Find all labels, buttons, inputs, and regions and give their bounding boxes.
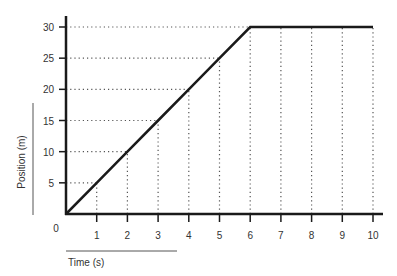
y-tick-label-5: 5	[48, 178, 54, 189]
x-tick-label-6: 6	[247, 230, 253, 241]
x-tick-label-8: 8	[309, 230, 315, 241]
x-tick-label-1: 1	[94, 230, 100, 241]
y-tick-label-15: 15	[43, 116, 55, 127]
x-tick-label-5: 5	[217, 230, 223, 241]
x-tick-label-4: 4	[186, 230, 192, 241]
x-tick-label-2: 2	[125, 230, 131, 241]
axes	[65, 16, 383, 215]
x-tick-label-3: 3	[155, 230, 161, 241]
y-axis-title: Position (m)	[16, 135, 27, 188]
ticks	[59, 27, 373, 222]
tick-labels: 5101520253012345678910	[43, 22, 379, 241]
x-tick-label-10: 10	[367, 230, 379, 241]
y-tick-label-10: 10	[43, 147, 55, 158]
position-time-chart: 5101520253012345678910 Position (m) Time…	[0, 0, 397, 276]
y-tick-label-20: 20	[43, 84, 55, 95]
x-tick-label-7: 7	[278, 230, 284, 241]
y-tick-label-25: 25	[43, 53, 55, 64]
grid-lines	[66, 27, 373, 214]
x-tick-label-9: 9	[340, 230, 346, 241]
y-tick-label-30: 30	[43, 22, 55, 33]
x-axis-title: Time (s)	[68, 257, 104, 268]
origin-label: 0	[53, 223, 59, 234]
